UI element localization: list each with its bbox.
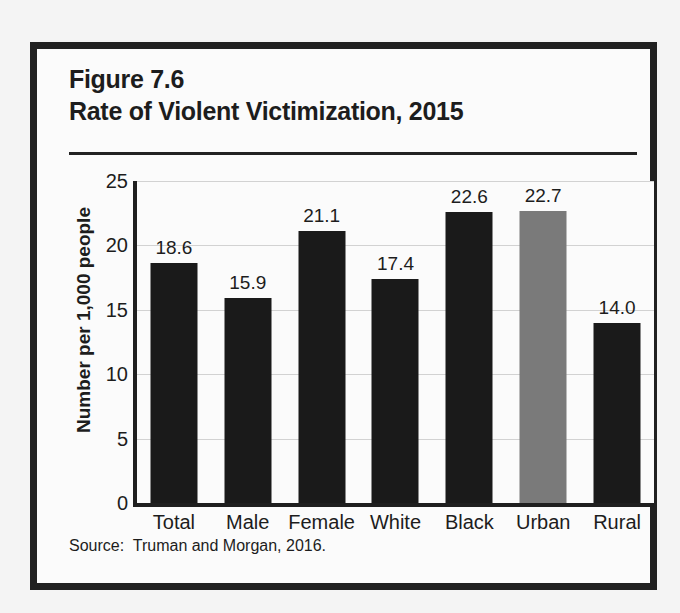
x-axis-category-label: Black bbox=[445, 511, 494, 534]
bar-total[interactable] bbox=[150, 263, 197, 503]
x-axis-category-label: Female bbox=[288, 511, 355, 534]
bar-black[interactable] bbox=[446, 212, 493, 503]
y-axis-tick-label: 20 bbox=[106, 234, 128, 257]
bar-group: 15.9Male bbox=[211, 181, 285, 503]
figure-frame: Figure 7.6 Rate of Violent Victimization… bbox=[30, 42, 657, 590]
x-axis-category-label: White bbox=[370, 511, 421, 534]
bar-value-label: 17.4 bbox=[377, 253, 414, 275]
bar-group: 17.4White bbox=[359, 181, 433, 503]
bar-value-label: 14.0 bbox=[599, 297, 636, 319]
x-axis-category-label: Total bbox=[153, 511, 195, 534]
figure-inner: Figure 7.6 Rate of Violent Victimization… bbox=[37, 49, 650, 583]
title-divider-rule bbox=[69, 152, 637, 155]
bar-value-label: 18.6 bbox=[155, 237, 192, 259]
y-axis-tick-label: 5 bbox=[117, 427, 128, 450]
bar-urban[interactable] bbox=[520, 211, 567, 503]
bar-value-label: 22.7 bbox=[525, 185, 562, 207]
bar-group: 22.6Black bbox=[432, 181, 506, 503]
y-axis-title: Number per 1,000 people bbox=[73, 223, 95, 433]
y-axis-tick-label: 0 bbox=[117, 492, 128, 515]
bar-male[interactable] bbox=[224, 298, 271, 503]
bar-group: 18.6Total bbox=[137, 181, 211, 503]
bar-group: 21.1Female bbox=[285, 181, 359, 503]
bar-value-label: 21.1 bbox=[303, 205, 340, 227]
x-axis-category-label: Rural bbox=[593, 511, 641, 534]
y-axis-tick-label: 15 bbox=[106, 298, 128, 321]
y-axis-tick-label: 10 bbox=[106, 363, 128, 386]
bar-female[interactable] bbox=[298, 231, 345, 503]
page-canvas: Figure 7.6 Rate of Violent Victimization… bbox=[0, 0, 680, 613]
bar-rural[interactable] bbox=[594, 323, 641, 503]
bar-chart: Number per 1,000 people 051015202518.6To… bbox=[37, 167, 650, 537]
x-axis-category-label: Male bbox=[226, 511, 269, 534]
bar-group: 14.0Rural bbox=[580, 181, 654, 503]
y-axis-tick-label: 25 bbox=[106, 170, 128, 193]
source-note: Source: Truman and Morgan, 2016. bbox=[69, 537, 326, 555]
bleed-through-header-text bbox=[40, 2, 640, 16]
plot-area: 051015202518.6Total15.9Male21.1Female17.… bbox=[133, 181, 654, 507]
figure-number-label: Figure 7.6 bbox=[69, 65, 184, 94]
x-axis-category-label: Urban bbox=[516, 511, 570, 534]
figure-title: Rate of Violent Victimization, 2015 bbox=[69, 97, 463, 126]
bar-value-label: 15.9 bbox=[229, 272, 266, 294]
bar-white[interactable] bbox=[372, 279, 419, 503]
bar-value-label: 22.6 bbox=[451, 186, 488, 208]
bar-group: 22.7Urban bbox=[506, 181, 580, 503]
